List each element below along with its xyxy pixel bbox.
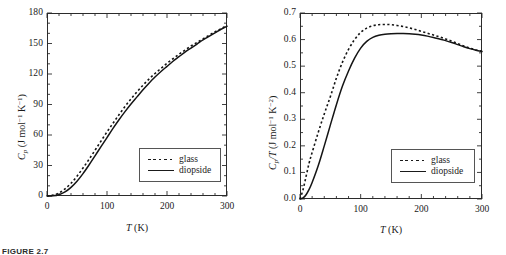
dotted-line-icon — [148, 156, 174, 164]
x-tick-label: 0 — [27, 202, 67, 212]
y-tick-label: 180 — [17, 8, 43, 18]
solid-line-icon — [400, 168, 426, 176]
legend-item-diopside: diopside — [148, 165, 211, 176]
x-tick-label: 100 — [87, 202, 127, 212]
y-tick-label: 0.5 — [270, 61, 296, 71]
y-tick-label: 90 — [17, 100, 43, 110]
x-axis-label-left: T (K) — [97, 222, 177, 233]
x-tick-label: 100 — [341, 205, 381, 215]
legend-right: glass diopside — [391, 149, 475, 183]
y-tick-label: 30 — [17, 161, 43, 171]
y-tick-label: 0 — [17, 191, 43, 201]
y-tick-label: 0.1 — [270, 167, 296, 177]
y-tick-label: 0.3 — [270, 114, 296, 124]
x-tick-label: 300 — [462, 205, 502, 215]
y-tick-label: 0.4 — [270, 88, 296, 98]
figure-caption: FIGURE 2.7 — [2, 247, 49, 255]
legend-item-diopside: diopside — [400, 166, 463, 177]
y-axis-label-right: Cp/T (J mol−1 K−2) — [267, 96, 280, 170]
legend-left: glass diopside — [139, 148, 221, 182]
panel-left-cp: Cp (J mol−1 K−1) T (K) glass diopside 03… — [0, 0, 253, 255]
legend-label-glass: glass — [431, 156, 450, 166]
legend-label-diopside: diopside — [179, 166, 211, 176]
x-tick-label: 300 — [207, 202, 247, 212]
y-tick-label: 0.7 — [270, 8, 296, 18]
x-axis-label-right: T (K) — [351, 224, 431, 235]
y-tick-label: 0.0 — [270, 194, 296, 204]
y-tick-label: 0.6 — [270, 35, 296, 45]
legend-item-glass: glass — [148, 154, 198, 165]
solid-line-icon — [148, 167, 174, 175]
dotted-line-icon — [400, 157, 426, 165]
legend-label-diopside: diopside — [431, 167, 463, 177]
y-tick-label: 120 — [17, 69, 43, 79]
x-tick-label: 200 — [147, 202, 187, 212]
x-tick-label: 0 — [280, 205, 320, 215]
x-tick-label: 200 — [401, 205, 441, 215]
y-tick-label: 0.2 — [270, 141, 296, 151]
y-tick-label: 150 — [17, 39, 43, 49]
legend-item-glass: glass — [400, 155, 450, 166]
y-tick-label: 60 — [17, 130, 43, 140]
panel-right-cp-over-t: Cp/T (J mol−1 K−2) T (K) glass diopside … — [253, 0, 506, 255]
legend-label-glass: glass — [179, 155, 198, 165]
